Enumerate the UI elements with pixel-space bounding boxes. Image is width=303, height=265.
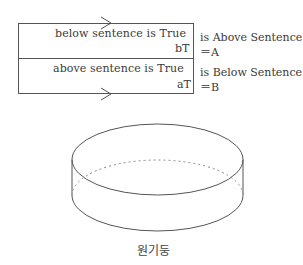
cylinder-caption: 원기둥: [137, 241, 170, 258]
arrow-bottom-icon: [101, 88, 111, 100]
cylinder-icon: [72, 124, 243, 231]
diagram-drawing: [0, 0, 303, 265]
arrow-top-icon: [101, 17, 111, 29]
